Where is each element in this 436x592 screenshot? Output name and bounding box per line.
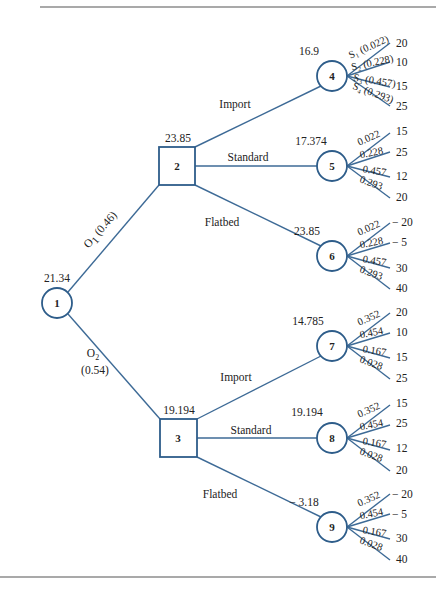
node-id-2: 2 xyxy=(174,160,180,172)
node-id-1: 1 xyxy=(54,297,60,309)
option-label-3-flatbed: Flatbed xyxy=(203,488,238,500)
option-label-3-import: Import xyxy=(220,371,252,384)
payoffs-5: 15 25 12 20 xyxy=(396,125,408,203)
node-id-4: 4 xyxy=(329,70,335,82)
branch-label-o2: O2 xyxy=(87,347,99,362)
payoff-9-4: 40 xyxy=(396,553,408,565)
edge-3-9 xyxy=(197,457,321,517)
node-id-6: 6 xyxy=(329,250,335,262)
node-value-1: 21.34 xyxy=(44,272,70,284)
option-label-2-import: Import xyxy=(219,98,251,111)
outcome-label-8-1: 0.352 xyxy=(356,400,382,420)
outcome-label-9-2: 0.454 xyxy=(359,506,385,521)
payoff-4-4: 25 xyxy=(396,100,408,112)
node-value-5: 17.374 xyxy=(295,135,327,147)
payoff-4-2: 10 xyxy=(396,56,408,68)
node-value-9: − 3.18 xyxy=(289,496,319,508)
node-value-7: 14.785 xyxy=(292,315,324,327)
payoff-8-3: 12 xyxy=(396,442,408,454)
decision-tree-diagram: 1 2 3 4 5 6 7 8 9 21.34 23.85 19.194 16.… xyxy=(0,0,436,592)
payoff-7-1: 20 xyxy=(396,306,408,318)
payoff-8-1: 15 xyxy=(396,397,408,409)
payoff-7-2: 10 xyxy=(396,326,408,338)
node-id-8: 8 xyxy=(329,432,335,444)
payoffs-8: 15 25 12 20 xyxy=(396,397,408,476)
payoffs-4: 20 10 15 25 xyxy=(396,37,408,112)
payoff-6-4: 40 xyxy=(396,282,408,294)
branch-prob-o2: (0.54) xyxy=(81,364,109,377)
payoff-6-1: − 20 xyxy=(392,216,413,228)
payoff-7-3: 15 xyxy=(396,351,408,363)
option-label-3-standard: Standard xyxy=(231,424,272,436)
node-value-6: 23.85 xyxy=(294,225,320,237)
outcome-label-6-2: 0.228 xyxy=(359,235,384,250)
payoff-4-3: 15 xyxy=(396,80,408,92)
payoff-5-1: 15 xyxy=(396,125,408,137)
payoff-6-3: 30 xyxy=(396,262,408,274)
outcome-label-7-2: 0.454 xyxy=(359,325,385,340)
outcome-label-6-1: 0.022 xyxy=(356,218,382,238)
outcome-label-9-1: 0.352 xyxy=(356,489,382,509)
node-id-3: 3 xyxy=(175,432,181,444)
option-label-2-standard: Standard xyxy=(228,151,269,163)
node-value-4: 16.9 xyxy=(299,45,319,57)
outcome-label-5-2: 0.228 xyxy=(359,145,384,160)
node-id-9: 9 xyxy=(329,521,335,533)
payoff-5-4: 20 xyxy=(396,191,408,203)
node-value-8: 19.194 xyxy=(291,406,323,418)
node-value-3: 19.194 xyxy=(163,404,195,416)
node-id-7: 7 xyxy=(329,340,335,352)
node-id-5: 5 xyxy=(329,160,335,172)
payoff-4-1: 20 xyxy=(396,37,408,49)
branch-label-o1: O1 (0.46) xyxy=(81,209,121,252)
payoffs-9: − 20 − 5 30 40 xyxy=(392,488,413,565)
outcome-label-5-1: 0.022 xyxy=(356,128,382,148)
node-value-2: 23.85 xyxy=(165,132,191,144)
payoff-5-3: 12 xyxy=(396,170,408,182)
payoff-9-2: − 5 xyxy=(392,508,407,520)
payoff-7-4: 25 xyxy=(396,372,408,384)
outcome-label-7-1: 0.352 xyxy=(356,308,382,328)
edge-1-2 xyxy=(68,185,159,292)
payoff-9-3: 30 xyxy=(396,532,408,544)
outcome-label-8-2: 0.454 xyxy=(359,417,385,432)
payoffs-6: − 20 − 5 30 40 xyxy=(392,216,413,294)
payoff-9-1: − 20 xyxy=(392,488,413,500)
option-label-2-flatbed: Flatbed xyxy=(205,216,240,228)
payoff-5-2: 25 xyxy=(396,146,408,158)
svg-text:O1 (0.46): O1 (0.46) xyxy=(81,209,121,252)
payoff-6-2: − 5 xyxy=(392,236,407,248)
payoffs-7: 20 10 15 25 xyxy=(396,306,408,384)
payoff-8-2: 25 xyxy=(396,417,408,429)
payoff-8-4: 20 xyxy=(396,464,408,476)
